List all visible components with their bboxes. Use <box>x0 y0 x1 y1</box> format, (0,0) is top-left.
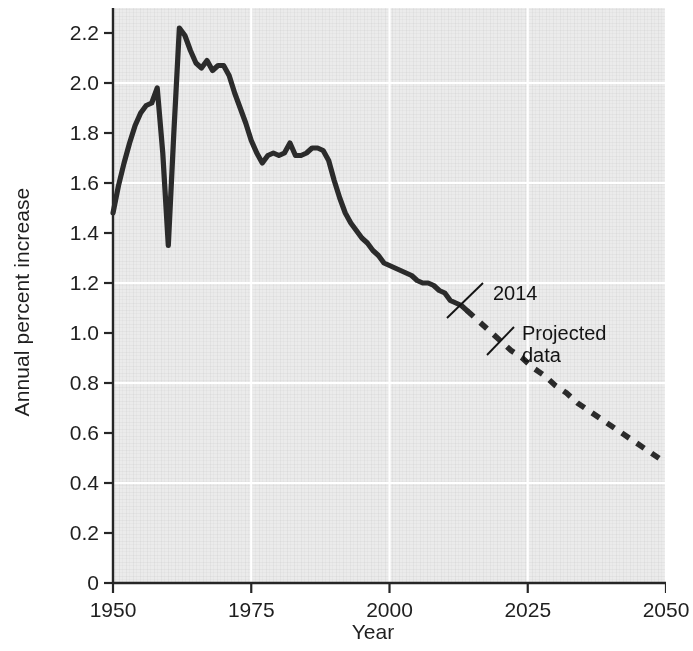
y-tick-label: 1.4 <box>29 222 99 243</box>
y-tick-label: 1.0 <box>29 322 99 343</box>
y-tick-label: 2.0 <box>29 72 99 93</box>
x-axis-title: Year <box>113 620 633 644</box>
y-tick-label: 1.2 <box>29 272 99 293</box>
annot-2014: 2014 <box>493 282 538 304</box>
y-tick-label: 1.6 <box>29 172 99 193</box>
x-tick-label: 1975 <box>206 599 296 620</box>
y-tick-label: 1.8 <box>29 122 99 143</box>
x-tick-label: 1950 <box>68 599 158 620</box>
y-tick-label: 2.2 <box>29 22 99 43</box>
x-tick-label: 2000 <box>345 599 435 620</box>
y-tick-label: 0.2 <box>29 522 99 543</box>
y-tick-label: 0.4 <box>29 472 99 493</box>
y-tick-label: 0 <box>29 572 99 593</box>
x-tick-label: 2025 <box>483 599 573 620</box>
annot-projected-data: Projected data <box>522 322 607 367</box>
y-tick-label: 0.8 <box>29 372 99 393</box>
x-tick-label: 2050 <box>621 599 693 620</box>
y-tick-label: 0.6 <box>29 422 99 443</box>
y-axis-title: Annual percent increase <box>10 92 34 512</box>
